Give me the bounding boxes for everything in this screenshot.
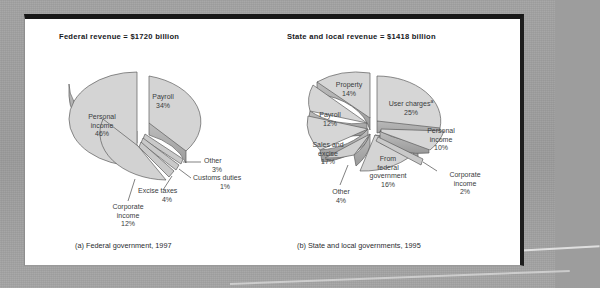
label-b-other: Other 4%: [322, 188, 360, 205]
figure-inner: Federal revenue = $1720 billion: [25, 19, 520, 266]
label-b-personal: Personal income 10%: [416, 127, 466, 153]
label-b-property: Property 14%: [324, 81, 374, 98]
label-b-payroll: Payroll 12%: [308, 111, 352, 128]
figure-panel: Federal revenue = $1720 billion: [24, 14, 524, 266]
chart-b-caption: (b) State and local governments, 1995: [297, 241, 421, 250]
label-b-corporate: Corporate income 2%: [438, 171, 492, 197]
label-b-sales-excise: Sales and excise 17%: [302, 141, 354, 167]
label-b-from-federal: From federal government 16%: [359, 155, 417, 189]
leader-b-other: [340, 165, 348, 185]
leader-b-corporate: [423, 162, 437, 171]
label-b-user-charges: User chargesa 25%: [380, 97, 442, 118]
